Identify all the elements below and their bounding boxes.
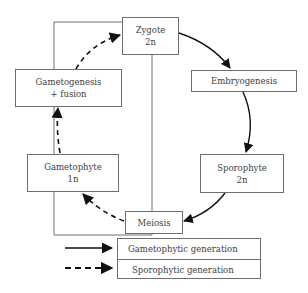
legend: Gametophytic generation Sporophytic gene…: [117, 238, 261, 279]
node-gametophyte-ploidy: 1n: [68, 173, 79, 185]
legend-dashed-label: Sporophytic generation: [132, 265, 234, 275]
node-embryogenesis: Embryogenesis: [191, 70, 297, 92]
edge-gametophyte-to-gametogenesis: [57, 108, 60, 153]
legend-solid-label: Gametophytic generation: [128, 244, 238, 254]
edge-gametogenesis-to-zygote: [76, 35, 120, 69]
node-meiosis: Meiosis: [125, 211, 183, 234]
edge-meiosis-to-gametophyte: [83, 194, 124, 221]
node-zygote-label: Zygote: [136, 24, 166, 36]
node-zygote-ploidy: 2n: [145, 36, 156, 48]
legend-item-dashed: Sporophytic generation: [118, 259, 260, 279]
edge-sporophyte-to-meiosis: [184, 193, 225, 221]
node-sporophyte-ploidy: 2n: [237, 174, 248, 186]
node-zygote: Zygote 2n: [122, 17, 179, 55]
node-meiosis-label: Meiosis: [137, 217, 170, 229]
node-embryogenesis-label: Embryogenesis: [211, 75, 277, 87]
edge-embryogenesis-to-sporophyte: [243, 92, 250, 152]
edge-zygote-to-embryogenesis: [179, 33, 230, 68]
node-gametogenesis-sublabel: + fusion: [50, 88, 86, 100]
node-gametophyte: Gametophyte 1n: [27, 154, 119, 192]
node-sporophyte: Sporophyte 2n: [200, 154, 284, 193]
node-gametogenesis: Gametogenesis + fusion: [15, 69, 122, 107]
node-gametogenesis-label: Gametogenesis: [36, 76, 102, 88]
node-gametophyte-label: Gametophyte: [44, 161, 102, 173]
node-sporophyte-label: Sporophyte: [217, 162, 267, 174]
legend-item-solid: Gametophytic generation: [118, 239, 260, 259]
